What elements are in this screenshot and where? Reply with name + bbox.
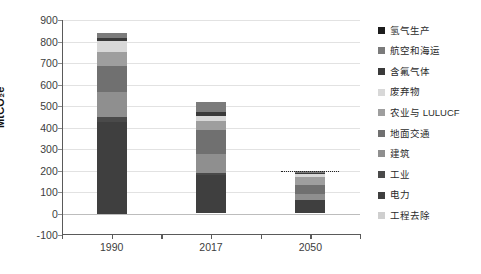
legend-item-label: 农业与 LULUCF: [390, 108, 460, 118]
y-axis-tick-label: 300: [40, 143, 58, 155]
x-axis-tick-mark: [211, 234, 212, 239]
y-axis-tick-mark: [58, 235, 62, 236]
x-axis-tick-label: 2050: [299, 241, 322, 253]
chart-legend: 氢气生产航空和海运含氟气体废弃物农业与 LULUCF地面交通建筑工业电力工程去除: [378, 20, 478, 226]
bar-2017[interactable]: [196, 20, 226, 235]
legend-swatch-icon: [378, 89, 385, 96]
y-axis-tick-mark: [58, 20, 62, 21]
bar-segment[interactable]: [97, 38, 127, 41]
plot-area: [62, 20, 360, 235]
y-axis-tick-label: 900: [40, 14, 58, 26]
bar-segment[interactable]: [295, 177, 325, 185]
bar-segment[interactable]: [295, 185, 325, 194]
x-axis-tick-mark: [310, 234, 311, 239]
x-axis-tick-label: 2017: [199, 241, 222, 253]
bar-segment[interactable]: [295, 194, 325, 200]
legend-item-label: 废弃物: [390, 87, 420, 97]
bar-2050[interactable]: [295, 20, 325, 235]
bar-segment[interactable]: [97, 66, 127, 92]
y-axis-tick-mark: [58, 128, 62, 129]
bar-segment[interactable]: [97, 33, 127, 38]
legend-swatch-icon: [378, 130, 385, 137]
bar-segment[interactable]: [196, 154, 226, 173]
bar-segment[interactable]: [196, 130, 226, 154]
y-axis-tick-mark: [58, 85, 62, 86]
legend-swatch-icon: [378, 27, 385, 34]
bar-segment[interactable]: [196, 116, 226, 121]
legend-swatch-icon: [378, 47, 385, 54]
bar-segment[interactable]: [295, 173, 325, 174]
bar-segment[interactable]: [295, 174, 325, 177]
legend-item-label: 含氟气体: [390, 67, 430, 77]
y-axis-tick-label: 800: [40, 36, 58, 48]
bar-1990[interactable]: [97, 20, 127, 235]
legend-item-label: 航空和海运: [390, 46, 440, 56]
bar-segment[interactable]: [196, 173, 226, 175]
y-axis-tick-mark: [58, 42, 62, 43]
y-axis-line: [62, 20, 63, 235]
legend-item[interactable]: 建筑: [378, 144, 478, 165]
chart-container: MtCO₂e -1000100200300400500600700800900 …: [0, 0, 481, 274]
legend-item-label: 电力: [390, 190, 410, 200]
bar-segment[interactable]: [196, 112, 226, 115]
y-axis-tick-labels: -1000100200300400500600700800900: [0, 0, 58, 274]
y-axis-tick-label: 400: [40, 122, 58, 134]
y-axis-tick-mark: [58, 214, 62, 215]
y-axis-tick-label: 100: [40, 186, 58, 198]
legend-item-label: 建筑: [390, 149, 410, 159]
x-axis-boundary-tick: [261, 234, 262, 239]
x-axis-boundary-tick: [161, 234, 162, 239]
legend-item-label: 氢气生产: [390, 26, 430, 36]
bar-segment[interactable]: [97, 117, 127, 122]
y-axis-tick-mark: [58, 149, 62, 150]
legend-item[interactable]: 电力: [378, 185, 478, 206]
bar-segment[interactable]: [196, 102, 226, 113]
legend-item[interactable]: 氢气生产: [378, 20, 478, 41]
legend-swatch-icon: [378, 68, 385, 75]
legend-item-label: 地面交通: [390, 129, 430, 139]
bar-segment[interactable]: [196, 175, 226, 213]
y-axis-tick-label: -100: [37, 229, 58, 241]
y-axis-tick-mark: [58, 106, 62, 107]
legend-item[interactable]: 农业与 LULUCF: [378, 102, 478, 123]
legend-swatch-icon: [378, 109, 385, 116]
legend-item[interactable]: 含氟气体: [378, 61, 478, 82]
legend-item[interactable]: 工业: [378, 164, 478, 185]
legend-item[interactable]: 废弃物: [378, 82, 478, 103]
legend-item[interactable]: 工程去除: [378, 205, 478, 226]
legend-swatch-icon: [378, 192, 385, 199]
y-axis-tick-mark: [58, 63, 62, 64]
x-axis-tick-mark: [112, 234, 113, 239]
bar-segment[interactable]: [97, 122, 127, 213]
legend-item-label: 工程去除: [390, 211, 430, 221]
legend-swatch-icon: [378, 150, 385, 157]
y-axis-tick-label: 700: [40, 57, 58, 69]
y-axis-tick-label: 600: [40, 79, 58, 91]
y-axis-tick-label: 200: [40, 165, 58, 177]
legend-item[interactable]: 航空和海运: [378, 41, 478, 62]
bar-segment[interactable]: [196, 121, 226, 130]
x-axis-boundary-tick: [62, 234, 63, 239]
y-axis-tick-mark: [58, 171, 62, 172]
legend-swatch-icon: [378, 171, 385, 178]
legend-item[interactable]: 地面交通: [378, 123, 478, 144]
x-axis-boundary-tick: [360, 234, 361, 239]
legend-swatch-icon: [378, 212, 385, 219]
bar-segment[interactable]: [97, 52, 127, 65]
y-axis-tick-label: 500: [40, 100, 58, 112]
y-axis-tick-mark: [58, 192, 62, 193]
bar-segment[interactable]: [295, 200, 325, 213]
net-zero-target-line: [281, 171, 339, 172]
x-axis-tick-label: 1990: [100, 241, 123, 253]
bar-segment[interactable]: [97, 92, 127, 117]
bar-segment[interactable]: [97, 41, 127, 52]
legend-item-label: 工业: [390, 170, 410, 180]
